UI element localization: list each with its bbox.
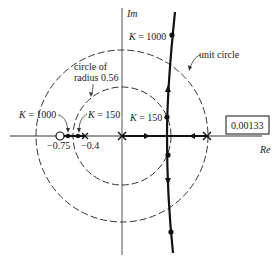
leader-k150-left-arrowhead — [77, 128, 81, 133]
label-k150-mid: K = 150 — [129, 112, 162, 123]
marker-k1000-bottom — [168, 229, 173, 234]
real-axis-label: Re — [259, 144, 271, 155]
label-k150-left: K = 150 — [87, 109, 120, 120]
label-circle-small-line1: circle of — [74, 61, 108, 72]
leader-k1000-left-arrowhead — [66, 128, 70, 133]
marker-k1000-top — [169, 32, 174, 37]
arrow-right-segment-2 — [189, 133, 195, 139]
imag-axis-label: Im — [126, 8, 138, 19]
label-unit-circle: unit circle — [199, 49, 240, 60]
tick-label-neg075: −0.75 — [47, 140, 70, 151]
label-circle-small-line2: radius 0.56 — [74, 72, 118, 83]
marker-k150-left — [76, 134, 80, 138]
arrow-branch-up — [165, 85, 171, 92]
arrow-branch-down — [165, 178, 171, 185]
label-k1000-left: K = 1000 — [18, 109, 56, 120]
label-k1000-top: K = 1000 — [128, 31, 166, 42]
tick-label-neg04: −0.4 — [81, 140, 99, 151]
marker-k150-upper — [164, 114, 169, 119]
leader-circle-small-arrowhead — [89, 92, 93, 97]
marker-k150-lower — [165, 152, 170, 157]
zero-symbol — [56, 132, 64, 140]
root-locus-diagram: Im Re K = 1000 K = 150 K = 1000 K = 150 … — [0, 0, 279, 265]
marker-k1000-left — [66, 134, 70, 138]
value-box-text: 0.00133 — [231, 120, 264, 131]
leader-unit-circle-arrowhead — [188, 65, 192, 71]
arrow-right-segment-1 — [144, 133, 150, 139]
